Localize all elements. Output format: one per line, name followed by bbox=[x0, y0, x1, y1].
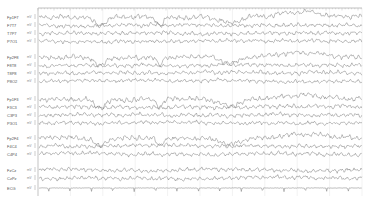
eeg-trace-p3o1 bbox=[39, 120, 362, 126]
eeg-trace-czpz bbox=[39, 175, 362, 182]
eeg-trace-t8p8 bbox=[39, 70, 362, 76]
eeg-trace-c3p3 bbox=[39, 112, 362, 119]
eeg-trace-c4p4 bbox=[39, 151, 362, 157]
eeg-viewer: Fp1F7mVF7T7mVT7P7mVP7O1mVFp2F8mVF8T8mVT8… bbox=[0, 0, 372, 203]
eeg-trace-ecg bbox=[39, 188, 362, 192]
eeg-trace-fp2f4 bbox=[39, 132, 362, 148]
eeg-trace-f3c3 bbox=[39, 104, 362, 110]
eeg-trace-plot[interactable] bbox=[0, 0, 372, 203]
eeg-trace-f8t8 bbox=[39, 62, 362, 68]
eeg-trace-p8o2 bbox=[39, 78, 362, 84]
eeg-trace-t7p7 bbox=[39, 31, 362, 36]
eeg-trace-fzcz bbox=[39, 167, 362, 173]
eeg-trace-f7t7 bbox=[39, 22, 362, 28]
eeg-trace-p7o1 bbox=[39, 38, 362, 44]
eeg-trace-f4c4 bbox=[39, 143, 362, 149]
